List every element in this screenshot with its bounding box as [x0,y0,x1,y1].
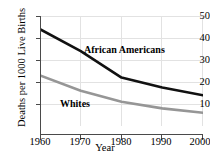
series-label-african-americans: African Americans [84,44,165,55]
y-tick-label-30: 30 [176,54,210,65]
line-chart: Deaths per 1000 Live Births 50 40 30 20 … [0,0,210,160]
y-tick-label-40: 40 [176,32,210,43]
y-tick-label-50: 50 [176,10,210,21]
y-tick-30 [36,60,41,61]
y-tick-40 [36,38,41,39]
x-axis-title: Year [0,142,210,153]
series-label-whites: Whites [60,98,90,109]
y-tick-label-20: 20 [176,76,210,87]
y-tick-10 [36,104,41,105]
y-tick-20 [36,82,41,83]
y-axis-title: Deaths per 1000 Live Births [16,6,27,130]
y-tick-50 [36,16,41,17]
y-axis-line [40,16,41,135]
y-tick-label-10: 10 [176,98,210,109]
